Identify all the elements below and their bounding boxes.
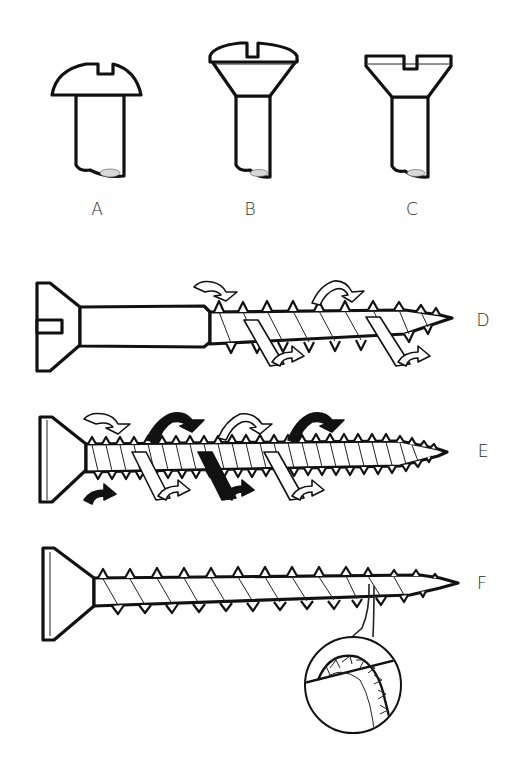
screw-diagram: A B C D E F [0,0,518,764]
screw-b-drawing [210,43,297,177]
screw-c-drawing [366,56,451,177]
screw-a-drawing [52,64,141,177]
label-e: E [478,443,489,460]
label-f: F [477,575,487,592]
screw-f-drawing [43,548,458,740]
label-a: A [91,201,103,218]
screw-e-drawing [40,413,447,504]
label-c: C [406,201,418,218]
label-d: D [476,312,489,329]
diagram-artwork [0,0,518,764]
label-b: B [244,201,255,218]
screw-d-drawing [37,281,452,371]
